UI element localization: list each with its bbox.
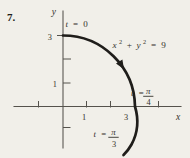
param-label-t-pi-over-3: t = π 3 — [94, 127, 119, 149]
equation-value: 9 — [161, 40, 166, 50]
t-pi4-denominator: 4 — [146, 98, 151, 107]
equation-term1: x — [112, 40, 118, 50]
param-label-t0: t = 0 — [66, 19, 89, 29]
y-tick-label-3: 3 — [48, 33, 52, 42]
curve-equation-label: x 2 + y 2 = 9 — [112, 36, 167, 50]
t-pi3-denominator: 3 — [112, 140, 116, 149]
equation-equals-sign: = — [151, 40, 156, 50]
t-pi4-prefix: t = — [131, 88, 144, 98]
t-pi4-var: t — [131, 88, 134, 98]
x-tick-label-3: 3 — [124, 113, 128, 122]
x-axis-label: x — [175, 112, 181, 122]
t0-equals: = — [73, 19, 78, 29]
x-tick-label-1: 1 — [82, 113, 86, 122]
y-axis-label: y — [51, 7, 57, 17]
t-pi3-numerator: π — [111, 127, 116, 137]
coordinate-axes — [14, 11, 181, 148]
t-pi3-prefix: t = — [94, 129, 107, 139]
y-tick-label-1: 1 — [53, 80, 57, 89]
equation-plus-sign: + — [127, 40, 132, 50]
figure-canvas: 7. y x 3 1 1 3 t = — [0, 0, 190, 158]
t-pi4-equals: = — [139, 88, 144, 98]
t0-value: 0 — [83, 19, 88, 29]
t-pi4-numerator: π — [146, 86, 151, 96]
equation-exp1: 2 — [119, 38, 122, 45]
t-pi3-var: t — [94, 129, 97, 139]
equation-exp2: 2 — [143, 38, 146, 45]
equation-term2: y — [136, 40, 142, 50]
t0-var: t — [66, 19, 69, 29]
problem-number: 7. — [7, 11, 16, 23]
textbook-figure-page: 7. y x 3 1 1 3 t = — [0, 0, 190, 158]
t-pi3-equals: = — [101, 129, 106, 139]
